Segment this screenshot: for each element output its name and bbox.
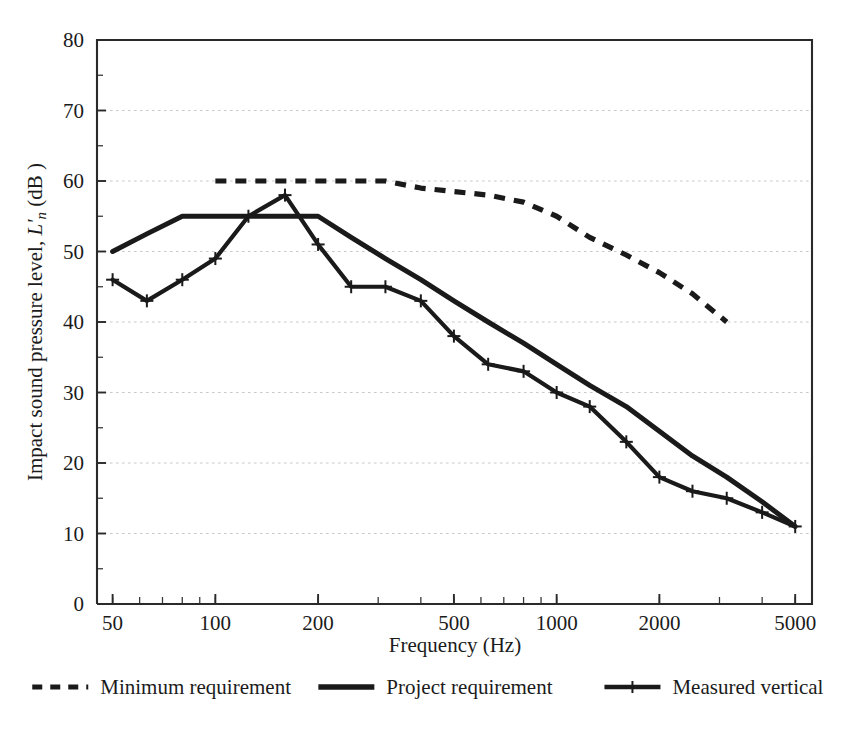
chart-figure: 01020304050607080 5010020050010002000500… — [0, 0, 854, 731]
legend-label: Project requirement — [386, 675, 552, 699]
chart-legend: Minimum requirementProject requirementMe… — [32, 675, 823, 699]
legend-label: Measured vertical — [672, 675, 823, 699]
y-tick-label: 60 — [63, 169, 84, 193]
x-axis-title-text: Frequency (Hz) — [389, 633, 521, 657]
y-axis-title-symbol: L' — [23, 219, 47, 237]
y-tick-label: 40 — [63, 310, 84, 334]
x-tick-label: 500 — [438, 611, 470, 635]
y-tick-label: 0 — [74, 592, 85, 616]
legend-item-project-requirement[interactable]: Project requirement — [318, 675, 552, 699]
y-tick-label: 10 — [63, 522, 84, 546]
y-tick-label: 50 — [63, 240, 84, 264]
y-tick-label: 80 — [63, 28, 84, 52]
legend-item-measured-vertical[interactable]: Measured vertical — [604, 675, 823, 699]
y-axis-title: Impact sound pressure level, L'n (dB ) — [23, 163, 49, 481]
y-axis-title-subscript: n — [33, 212, 49, 220]
y-tick-label: 30 — [63, 381, 84, 405]
legend-label: Minimum requirement — [100, 675, 291, 699]
y-axis-title-suffix: (dB ) — [23, 163, 47, 212]
x-axis-title: Frequency (Hz) — [389, 633, 521, 657]
legend-item-minimum-requirement[interactable]: Minimum requirement — [32, 675, 291, 699]
data-series-group — [106, 181, 802, 533]
svg-text:Impact sound pressure level, L: Impact sound pressure level, L'n (dB ) — [23, 163, 49, 481]
x-tick-label: 100 — [200, 611, 232, 635]
plus-marker — [379, 280, 392, 293]
plus-marker — [686, 485, 699, 498]
grid-lines — [98, 111, 811, 534]
y-tick-label: 70 — [63, 99, 84, 123]
plus-marker — [720, 492, 733, 505]
series-measured-vertical — [106, 189, 802, 533]
x-tick-label: 5000 — [774, 611, 816, 635]
y-tick-label: 20 — [63, 451, 84, 475]
series-path — [113, 195, 796, 526]
x-tick-label: 50 — [102, 611, 123, 635]
x-tick-label: 1000 — [536, 611, 578, 635]
x-axis-ticks: 50100200500100020005000 — [102, 594, 816, 635]
x-tick-label: 200 — [302, 611, 334, 635]
y-axis-ticks: 01020304050607080 — [63, 28, 106, 616]
y-axis-title-prefix: Impact sound pressure level, — [23, 236, 47, 482]
impact-sound-pressure-level-chart: 01020304050607080 5010020050010002000500… — [0, 0, 854, 731]
x-tick-label: 2000 — [638, 611, 680, 635]
